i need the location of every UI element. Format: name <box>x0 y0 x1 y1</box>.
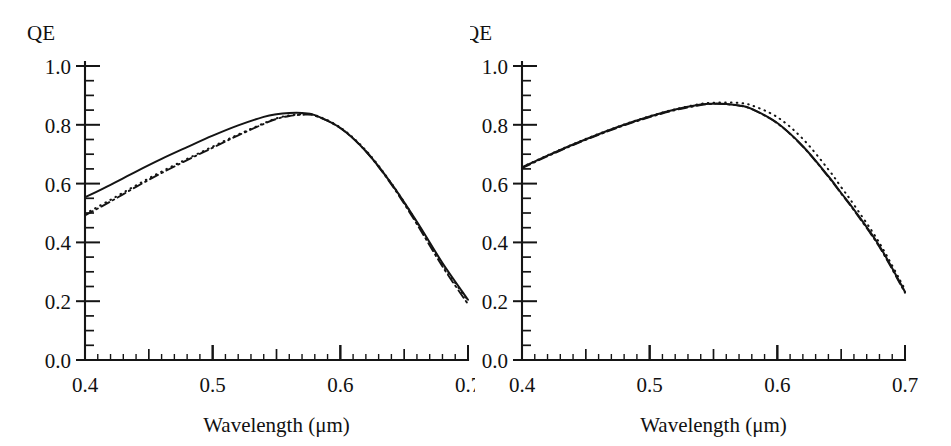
x-tick-label: 0.6 <box>327 373 353 397</box>
x-tick-label: 0.4 <box>509 373 536 397</box>
x-tick-label: 0.7 <box>892 373 918 397</box>
panel-left-plot: 0.40.50.60.70.00.20.40.60.81.0QEWaveleng… <box>0 0 475 446</box>
y-axis-title: QE <box>27 21 55 45</box>
x-tick-label: 0.6 <box>764 373 790 397</box>
x-tick-label: 0.5 <box>637 373 663 397</box>
y-tick-label: 0.4 <box>45 231 72 255</box>
quantum-efficiency-panel-left: 0.40.50.60.70.00.20.40.60.81.0QEWaveleng… <box>0 0 475 446</box>
y-tick-label: 1.0 <box>45 55 71 79</box>
panel-right-plot: 0.40.50.60.70.00.20.40.60.81.0QEWaveleng… <box>470 0 951 446</box>
y-tick-label: 0.8 <box>45 114 71 138</box>
x-tick-label: 0.5 <box>200 373 226 397</box>
curve-dotted <box>85 114 468 301</box>
y-tick-label: 0.0 <box>45 349 71 373</box>
curve-dash-dot <box>85 114 468 304</box>
x-tick-label: 0.4 <box>72 373 99 397</box>
quantum-efficiency-figure: 0.40.50.60.70.00.20.40.60.81.0QEWaveleng… <box>0 0 951 446</box>
y-tick-label: 0.0 <box>482 349 508 373</box>
y-tick-label: 0.6 <box>482 173 508 197</box>
y-tick-label: 0.6 <box>45 173 71 197</box>
curve-solid <box>522 104 905 292</box>
curve-dotted <box>522 102 905 289</box>
y-axis-title: QE <box>470 21 492 45</box>
y-tick-label: 0.2 <box>45 290 71 314</box>
x-axis-title: Wavelength (μm) <box>640 413 787 437</box>
y-tick-label: 0.4 <box>482 231 509 255</box>
y-tick-label: 0.2 <box>482 290 508 314</box>
y-tick-label: 0.8 <box>482 114 508 138</box>
curve-solid <box>85 113 468 300</box>
quantum-efficiency-panel-right: 0.40.50.60.70.00.20.40.60.81.0QEWaveleng… <box>470 0 951 446</box>
y-tick-label: 1.0 <box>482 55 508 79</box>
x-axis-title: Wavelength (μm) <box>203 413 350 437</box>
curve-dashed <box>522 104 905 293</box>
